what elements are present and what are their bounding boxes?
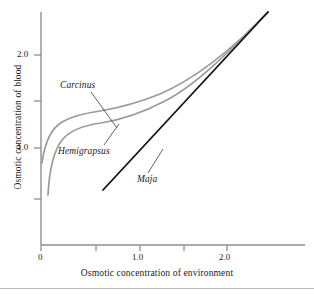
osmoregulation-line-chart (0, 0, 314, 295)
figure-panel: 2.0 1.0 0 1.0 2.0 Carcinus Hemigrapsus M… (0, 0, 314, 295)
series-label-carcinus: Carcinus (60, 80, 95, 90)
figure-bottom-rule (0, 288, 314, 289)
y-axis-title: Osmotic concentration of blood (13, 12, 23, 242)
x-tick-marks (41, 245, 227, 251)
y-tick-marks (34, 55, 41, 199)
x-axis-title: Osmotic concentration of environment (0, 268, 314, 278)
x-tick-label-0: 0 (38, 252, 43, 262)
x-tick-label-2.0: 2.0 (219, 252, 230, 262)
series-label-hemigrapsus: Hemigrapsus (58, 146, 110, 156)
annotation-leaders (91, 92, 163, 173)
series-label-maja: Maja (137, 174, 157, 184)
series-line-maja (103, 12, 268, 190)
y-axis-title-wrapper: Osmotic concentration of blood (13, 12, 27, 242)
leader-line-maja (148, 149, 163, 173)
leader-line-hemigrapsus (104, 124, 119, 145)
x-tick-label-1.0: 1.0 (132, 252, 143, 262)
series-curve-hemigrapsus (48, 12, 268, 195)
